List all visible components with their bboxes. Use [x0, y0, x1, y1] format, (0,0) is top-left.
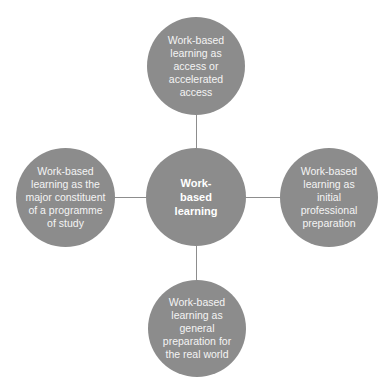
node-top: Work-based learning as access or acceler… — [147, 17, 245, 115]
node-bottom-label: Work-based learning as general preparati… — [159, 296, 235, 361]
connector-right — [245, 197, 282, 198]
node-bottom: Work-based learning as general preparati… — [148, 280, 246, 377]
node-right: Work-based learning as initial professio… — [280, 148, 378, 247]
node-right-label: Work-based learning as initial professio… — [297, 165, 362, 230]
node-center-label: Work- based learning — [171, 176, 222, 218]
node-left-label: Work-based learning as the major constit… — [22, 165, 110, 230]
node-top-label: Work-based learning as access or acceler… — [164, 34, 228, 99]
connector-left — [114, 197, 148, 198]
connector-bottom — [196, 244, 197, 282]
connector-top — [196, 114, 197, 150]
diagram-canvas: Work-based learning as access or acceler… — [0, 0, 388, 391]
node-center: Work- based learning — [146, 148, 246, 246]
node-left: Work-based learning as the major constit… — [16, 148, 115, 247]
